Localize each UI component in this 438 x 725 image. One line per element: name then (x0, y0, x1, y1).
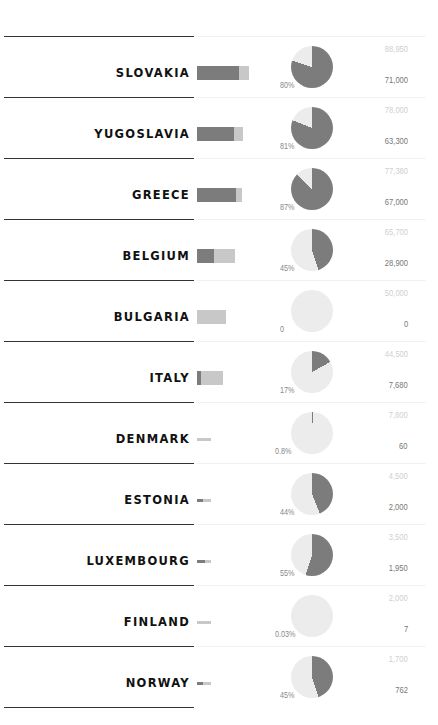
total-label: 77,380 (385, 165, 408, 176)
bar-remainder-segment (197, 438, 211, 441)
country-label: BELGIUM (122, 249, 190, 263)
total-label: 50,000 (385, 287, 408, 298)
chart-row: ITALY17%44,5007,680 (0, 341, 438, 402)
row-divider-faint (196, 646, 426, 647)
value-label: 71,000 (385, 74, 408, 85)
total-label: 88,950 (385, 43, 408, 54)
country-label: YUGOSLAVIA (94, 127, 190, 141)
share-pie (291, 107, 333, 149)
bar-remainder-segment (239, 66, 249, 80)
total-label: 4,500 (389, 470, 408, 481)
row-divider (4, 585, 194, 586)
share-pie (291, 168, 333, 210)
stacked-bar (197, 66, 249, 80)
percent-label: 45% (280, 263, 294, 273)
row-divider (4, 280, 194, 281)
row-divider (4, 219, 194, 220)
bar-remainder-segment (214, 249, 236, 263)
value-label: 7 (404, 623, 408, 634)
row-divider-faint (196, 463, 426, 464)
value-label: 60 (400, 440, 408, 451)
total-label: 65,700 (385, 226, 408, 237)
stacked-bar (197, 621, 211, 624)
country-label: BULGARIA (114, 310, 190, 324)
total-label: 2,000 (389, 592, 408, 603)
total-label: 3,500 (389, 531, 408, 542)
total-label: 1,700 (389, 653, 408, 664)
share-pie (291, 229, 333, 271)
share-pie (291, 412, 333, 454)
share-pie (291, 534, 333, 576)
stacked-bar (197, 499, 211, 502)
percent-label: 44% (280, 507, 294, 517)
chart-row: NORWAY45%1,700762 (0, 646, 438, 707)
total-label: 7,800 (389, 409, 408, 420)
chart-row: ESTONIA44%4,5002,000 (0, 463, 438, 524)
row-divider-faint (196, 280, 426, 281)
percent-label: 87% (280, 202, 294, 212)
row-divider (4, 97, 194, 98)
stacked-bar (197, 127, 243, 141)
share-pie (291, 290, 333, 332)
row-divider-faint (196, 219, 426, 220)
stacked-bar (197, 310, 226, 324)
total-label: 78,000 (385, 104, 408, 115)
row-divider (4, 707, 194, 708)
share-pie (291, 595, 333, 637)
country-label: DENMARK (116, 432, 190, 446)
share-pie (291, 351, 333, 393)
chart-row: LUXEMBOURG55%3,5001,950 (0, 524, 438, 585)
country-label: GREECE (132, 188, 190, 202)
percent-label: 80% (280, 80, 294, 90)
bar-remainder-segment (203, 682, 211, 685)
percent-label: 0.03% (275, 629, 295, 639)
country-label: LUXEMBOURG (86, 554, 190, 568)
row-divider-faint (196, 524, 426, 525)
stacked-bar (197, 682, 211, 685)
country-label: ITALY (150, 371, 191, 385)
country-label: FINLAND (124, 615, 190, 629)
bar-value-segment (197, 66, 239, 80)
row-divider-faint (196, 36, 426, 37)
row-divider (4, 36, 194, 37)
stacked-bar (197, 560, 211, 563)
chart-row: BULGARIA050,0000 (0, 280, 438, 341)
share-pie (291, 473, 333, 515)
share-pie (291, 46, 333, 88)
row-divider (4, 158, 194, 159)
share-pie (291, 656, 333, 698)
chart-row: FINLAND0.03%2,0007 (0, 585, 438, 646)
row-divider (4, 402, 194, 403)
bar-remainder-segment (203, 499, 211, 502)
row-divider-faint (196, 158, 426, 159)
percent-label: 45% (280, 690, 294, 700)
bar-value-segment (197, 127, 234, 141)
bar-value-segment (197, 188, 236, 202)
value-label: 762 (395, 684, 408, 695)
country-label: SLOVAKIA (116, 66, 190, 80)
bar-remainder-segment (234, 127, 243, 141)
bar-remainder-segment (205, 560, 211, 563)
percent-label: 0 (280, 324, 284, 334)
bar-remainder-segment (201, 371, 223, 385)
chart-row: BELGIUM45%65,70028,900 (0, 219, 438, 280)
stacked-bar (197, 188, 242, 202)
bar-remainder-segment (236, 188, 242, 202)
value-label: 0 (404, 318, 408, 329)
row-divider-faint (196, 585, 426, 586)
bar-value-segment (197, 560, 205, 563)
percent-label: 0.8% (275, 446, 291, 456)
percent-label: 55% (280, 568, 294, 578)
value-label: 2,000 (389, 501, 408, 512)
chart-row: SLOVAKIA80%88,95071,000 (0, 36, 438, 97)
value-label: 63,300 (385, 135, 408, 146)
value-label: 1,950 (389, 562, 408, 573)
bar-remainder-segment (197, 621, 211, 624)
bar-value-segment (197, 249, 214, 263)
value-label: 7,680 (389, 379, 408, 390)
bar-remainder-segment (197, 310, 226, 324)
percent-label: 17% (280, 385, 294, 395)
percent-label: 81% (280, 141, 294, 151)
chart-row: DENMARK0.8%7,80060 (0, 402, 438, 463)
row-divider (4, 646, 194, 647)
